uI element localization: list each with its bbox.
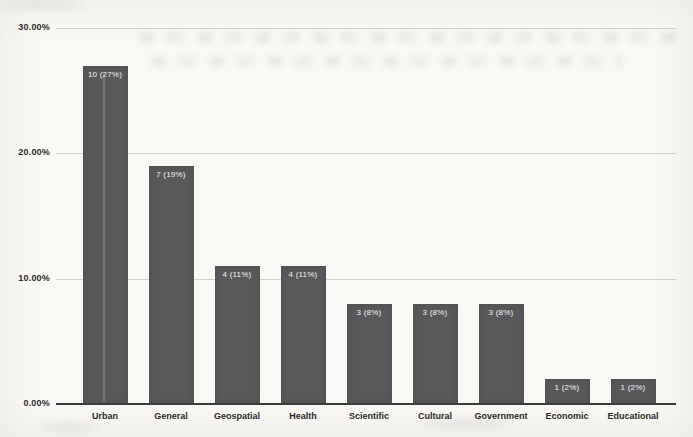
- bar-government: 3 (8%): [479, 304, 524, 403]
- bar-cultural: 3 (8%): [413, 304, 458, 403]
- bar-scientific: 3 (8%): [347, 304, 392, 403]
- y-axis-tick-label: 30.00%: [2, 22, 50, 32]
- bar-value-label: 4 (11%): [215, 270, 260, 279]
- bar-value-label: 3 (8%): [479, 308, 524, 317]
- scanned-figure-page: 30.00%20.00%10.00%0.00%10 (27%)Urban7 (1…: [0, 0, 693, 437]
- x-axis-category-label: Health: [268, 411, 338, 421]
- x-axis-category-label: General: [136, 411, 206, 421]
- x-axis-category-label: Government: [466, 411, 536, 421]
- bar-economic: 1 (2%): [545, 379, 590, 403]
- bar-value-label: 4 (11%): [281, 270, 326, 279]
- x-axis-category-label: Scientific: [334, 411, 404, 421]
- bar-value-label: 7 (19%): [149, 170, 194, 179]
- x-axis-category-label: Economic: [532, 411, 602, 421]
- bar-general: 7 (19%): [149, 166, 194, 403]
- bar-value-label: 3 (8%): [347, 308, 392, 317]
- y-axis-tick-label: 10.00%: [2, 273, 50, 283]
- gridline: [56, 153, 676, 154]
- bar-chart: 30.00%20.00%10.00%0.00%10 (27%)Urban7 (1…: [0, 0, 693, 437]
- bar-urban: 10 (27%): [83, 66, 128, 403]
- x-axis-category-label: Cultural: [400, 411, 470, 421]
- gridline: [56, 28, 676, 29]
- x-axis-category-label: Educational: [598, 411, 668, 421]
- y-axis-tick-label: 0.00%: [2, 398, 50, 408]
- bar-value-label: 1 (2%): [545, 383, 590, 392]
- bar-educational: 1 (2%): [611, 379, 656, 403]
- x-axis-category-label: Geospatial: [202, 411, 272, 421]
- bar-value-label: 1 (2%): [611, 383, 656, 392]
- bar-value-label: 10 (27%): [83, 70, 128, 79]
- x-axis-category-label: Urban: [70, 411, 140, 421]
- x-axis-line: [56, 403, 676, 405]
- y-axis-tick-label: 20.00%: [2, 147, 50, 157]
- bar-value-label: 3 (8%): [413, 308, 458, 317]
- bar-geospatial: 4 (11%): [215, 266, 260, 403]
- bar-health: 4 (11%): [281, 266, 326, 403]
